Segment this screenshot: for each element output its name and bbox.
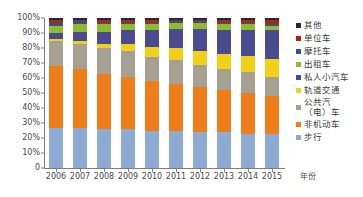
bar-segment: [97, 24, 111, 32]
bar-segment: [193, 132, 207, 168]
bar-segment: [121, 77, 135, 130]
x-tick-label: 2009: [118, 172, 138, 181]
bar-segment: [217, 90, 231, 132]
x-tick-label: 2014: [238, 172, 258, 181]
bar-segment: [145, 47, 159, 58]
legend-label: 私人小汽车: [304, 72, 349, 82]
bar-segment: [169, 29, 183, 49]
bar-segment: [121, 44, 135, 52]
bar-segment: [241, 134, 255, 169]
bar-segment: [97, 32, 111, 44]
bar-segment: [265, 30, 279, 59]
bar-column: [121, 18, 135, 168]
legend-item[interactable]: 摩托车: [296, 45, 362, 57]
bar-segment: [241, 72, 255, 93]
plot-area: 010%20%30%40%50%60%70%80%90%100%: [44, 18, 284, 168]
legend-item[interactable]: 单位车: [296, 32, 362, 44]
bar-column: [145, 18, 159, 168]
legend-item[interactable]: 出租车: [296, 58, 362, 70]
x-tick-mark: [176, 169, 177, 172]
bar-segment: [265, 59, 279, 77]
x-tick-mark: [272, 169, 273, 172]
bar-segment: [73, 128, 87, 169]
legend-item[interactable]: 非机动车: [296, 118, 362, 130]
bar-segment: [169, 48, 183, 60]
bar-segment: [217, 132, 231, 168]
legend-item[interactable]: 公共汽 （电）车: [296, 97, 362, 117]
bar-segment: [97, 48, 111, 74]
legend-item[interactable]: 其他: [296, 19, 362, 31]
legend-swatch-icon: [296, 105, 301, 110]
bar-segment: [49, 66, 63, 128]
legend-label: 公共汽 （电）车: [304, 97, 340, 117]
legend-label: 轨道交通: [304, 85, 340, 95]
legend-swatch-icon: [296, 135, 301, 140]
bar-segment: [121, 129, 135, 168]
bar-segment: [265, 77, 279, 97]
bar-segment: [241, 30, 255, 56]
bar-column: [169, 18, 183, 168]
bar-group: [44, 18, 284, 168]
bar-segment: [121, 30, 135, 44]
bar-segment: [49, 26, 63, 34]
legend-label: 单位车: [304, 33, 331, 43]
x-axis-title: 年份: [300, 172, 316, 181]
legend-swatch-icon: [296, 23, 301, 28]
legend-item[interactable]: 私人小汽车: [296, 71, 362, 83]
legend-label: 摩托车: [304, 46, 331, 56]
bar-segment: [217, 30, 231, 54]
legend-swatch-icon: [296, 88, 301, 93]
bar-column: [241, 18, 255, 168]
x-tick-label: 2010: [142, 172, 162, 181]
legend-swatch-icon: [296, 62, 301, 67]
bar-segment: [193, 29, 207, 52]
bar-segment: [145, 131, 159, 169]
legend-item[interactable]: 轨道交通: [296, 84, 362, 96]
x-tick-mark: [200, 169, 201, 172]
x-tick-mark: [224, 169, 225, 172]
x-tick-label: 2007: [70, 172, 90, 181]
bar-segment: [265, 134, 279, 169]
x-tick-mark: [152, 169, 153, 172]
bar-segment: [193, 51, 207, 65]
bar-segment: [169, 60, 183, 84]
bar-segment: [145, 81, 159, 131]
bar-segment: [73, 69, 87, 128]
bar-segment: [97, 74, 111, 130]
bar-segment: [49, 128, 63, 169]
legend-item[interactable]: 步行: [296, 131, 362, 143]
legend-label: 其他: [304, 20, 322, 30]
bar-segment: [49, 41, 63, 67]
bar-segment: [193, 65, 207, 88]
legend-label: 非机动车: [304, 119, 340, 129]
legend-label: 出租车: [304, 59, 331, 69]
bar-segment: [145, 30, 159, 47]
bar-segment: [193, 87, 207, 132]
bar-column: [73, 18, 87, 168]
x-tick-mark: [56, 169, 57, 172]
bar-column: [49, 18, 63, 168]
x-tick-label: 2015: [262, 172, 282, 181]
x-tick-label: 2006: [46, 172, 66, 181]
bar-segment: [73, 32, 87, 41]
bar-segment: [97, 129, 111, 168]
x-tick-mark: [104, 169, 105, 172]
legend-swatch-icon: [296, 122, 301, 127]
bar-segment: [169, 84, 183, 131]
y-tick-label: 100%: [17, 14, 44, 22]
bar-segment: [241, 93, 255, 134]
bar-segment: [217, 54, 231, 69]
x-tick-mark: [128, 169, 129, 172]
bar-segment: [73, 24, 87, 32]
stacked-column-chart: 010%20%30%40%50%60%70%80%90%100% 2006200…: [0, 0, 363, 197]
x-tick-label: 2012: [190, 172, 210, 181]
x-tick-mark: [80, 169, 81, 172]
bar-segment: [73, 44, 87, 70]
bar-segment: [217, 69, 231, 90]
bar-segment: [241, 56, 255, 73]
chart-legend: 其他单位车摩托车出租车私人小汽车轨道交通公共汽 （电）车非机动车步行: [296, 19, 362, 144]
legend-swatch-icon: [296, 75, 301, 80]
legend-swatch-icon: [296, 36, 301, 41]
x-tick-label: 2008: [94, 172, 114, 181]
bar-segment: [169, 131, 183, 169]
